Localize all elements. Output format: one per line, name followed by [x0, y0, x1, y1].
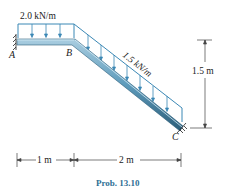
- support-a-icon: [13, 34, 16, 50]
- point-b-label: B: [66, 47, 72, 58]
- horizontal-load-label: 2.0 kN/m: [20, 11, 57, 21]
- dimension-1m-label: 1 m: [37, 155, 52, 165]
- dimension-2m-label: 2 m: [119, 155, 134, 165]
- beam: [17, 39, 183, 131]
- problem-caption: Prob. 13.10: [96, 178, 140, 188]
- horizontal-distributed-load: [18, 24, 74, 38]
- inclined-distributed-load: [74, 24, 182, 122]
- vertical-dimension: [190, 40, 212, 128]
- vertical-dimension-label: 1.5 m: [192, 66, 214, 76]
- beam-diagram: 2.0 kN/m 1.5 kN/m A B C: [0, 0, 228, 195]
- point-a-label: A: [8, 49, 16, 60]
- point-c-label: C: [172, 131, 179, 142]
